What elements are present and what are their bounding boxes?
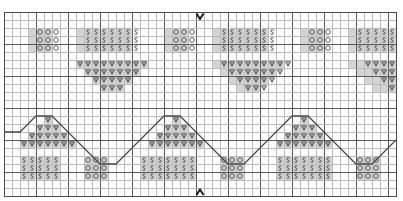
chart-border xyxy=(5,13,397,197)
yarn-over-symbol xyxy=(54,30,59,35)
yarn-over-symbol xyxy=(326,46,331,51)
slip-stitch-symbol xyxy=(134,38,137,43)
slip-stitch-symbol xyxy=(270,46,273,51)
top-yo-block-2-shading xyxy=(164,28,188,52)
slip-stitch-symbol xyxy=(134,30,137,35)
slip-stitch-symbol xyxy=(270,38,273,43)
yarn-over-symbol xyxy=(326,38,331,43)
repeat-markers-layer xyxy=(197,14,204,196)
decrease-symbol xyxy=(286,62,291,67)
chart-outer-border xyxy=(5,13,397,197)
yarn-over-symbol xyxy=(190,46,195,51)
chart-canvas xyxy=(0,0,403,201)
gridlines-layer xyxy=(5,13,397,197)
slip-stitch-symbol xyxy=(270,30,273,35)
repeat-start-marker xyxy=(197,14,204,20)
yarn-over-symbol xyxy=(54,46,59,51)
top-yo-block-3-shading xyxy=(300,28,324,52)
decrease-symbol xyxy=(262,86,267,91)
yarn-over-symbol xyxy=(54,38,59,43)
repeat-end-marker xyxy=(197,190,204,196)
decrease-symbol xyxy=(270,78,275,83)
yarn-over-symbol xyxy=(190,38,195,43)
slip-stitch-symbol xyxy=(134,46,137,51)
top-yo-block-1-shading xyxy=(28,28,52,52)
yarn-over-symbol xyxy=(326,30,331,35)
yarn-over-symbol xyxy=(190,30,195,35)
decrease-symbol xyxy=(278,70,283,75)
knitting-chart xyxy=(0,0,403,201)
